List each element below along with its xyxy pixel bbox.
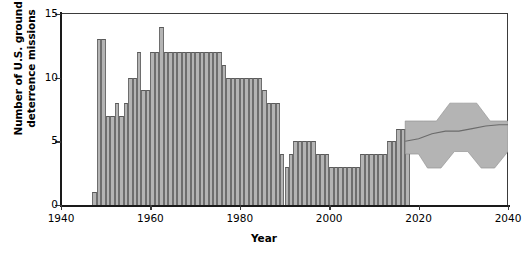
x-tick-label-2040: 2040 xyxy=(495,212,522,224)
x-tick-mark-2000 xyxy=(329,205,330,210)
x-tick-mark-2020 xyxy=(419,205,420,210)
y-tick-label: 10 xyxy=(45,71,58,83)
y-axis-title-line1: Number of U.S. ground xyxy=(12,1,24,135)
plot-area: 051015 194019601980200020202040 xyxy=(61,14,508,205)
y-axis-title: Number of U.S. ground deterrence mission… xyxy=(12,0,37,169)
x-axis-line xyxy=(60,205,510,207)
x-tick-mark-2040 xyxy=(508,205,509,210)
y-tick-label: 0 xyxy=(51,198,58,210)
x-tick-label-1960: 1960 xyxy=(137,212,164,224)
chart-figure: Number of U.S. ground deterrence mission… xyxy=(0,0,528,255)
x-tick-label-2000: 2000 xyxy=(316,212,343,224)
x-axis-title: Year xyxy=(0,232,528,244)
x-tick-mark-1940 xyxy=(61,205,62,210)
x-tick-label-1940: 1940 xyxy=(48,212,75,224)
x-tick-label-2020: 2020 xyxy=(405,212,432,224)
projection-band xyxy=(61,14,508,205)
x-tick-mark-1960 xyxy=(150,205,151,210)
y-tick-label: 5 xyxy=(51,134,58,146)
x-tick-label-1980: 1980 xyxy=(226,212,253,224)
y-tick-label: 15 xyxy=(45,7,58,19)
projection-band-area xyxy=(405,103,508,168)
x-tick-mark-1980 xyxy=(240,205,241,210)
y-axis-title-line2: deterrence missions xyxy=(24,0,37,169)
